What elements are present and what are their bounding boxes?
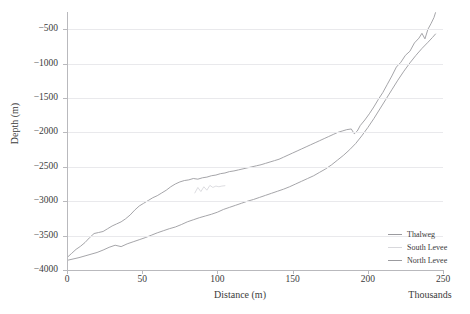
- y-tick-label: −3000: [12, 196, 58, 206]
- legend-label: Thalweg: [407, 231, 435, 239]
- legend-item[interactable]: Thalweg: [388, 228, 468, 241]
- y-tick-label: −500: [12, 24, 58, 34]
- x-tick-label: 250: [420, 275, 466, 285]
- legend: ThalwegSouth LeveeNorth Levee: [388, 228, 468, 267]
- legend-swatch: [388, 260, 402, 261]
- grid-line: [67, 98, 443, 99]
- legend-swatch: [388, 234, 402, 235]
- series-line: [195, 185, 225, 193]
- legend-item[interactable]: South Levee: [388, 241, 468, 254]
- x-axis-title: Distance (m): [180, 289, 300, 300]
- series-layer: [67, 12, 443, 270]
- x-tick-label: 0: [44, 275, 90, 285]
- y-tick-mark: [63, 29, 67, 30]
- x-axis-units-note: Thousands: [393, 289, 467, 300]
- y-tick-label: −4000: [12, 265, 58, 275]
- grid-line: [67, 29, 443, 30]
- y-axis-title: Depth (m): [9, 64, 20, 184]
- x-tick-label: 150: [270, 275, 316, 285]
- x-axis-line: [67, 270, 443, 271]
- y-tick-label: −3500: [12, 231, 58, 241]
- y-tick-mark: [63, 201, 67, 202]
- legend-item[interactable]: North Levee: [388, 254, 468, 267]
- depth-profile-chart: −500−1000−1500−2000−2500−3000−3500−4000 …: [0, 0, 470, 314]
- series-line: [67, 13, 435, 258]
- legend-swatch: [388, 247, 402, 248]
- grid-line: [67, 64, 443, 65]
- x-tick-label: 100: [194, 275, 240, 285]
- x-tick-label: 200: [345, 275, 391, 285]
- y-axis-line: [67, 12, 68, 270]
- y-tick-mark: [63, 236, 67, 237]
- grid-line: [67, 236, 443, 237]
- x-tick-label: 50: [119, 275, 165, 285]
- series-line: [67, 34, 435, 260]
- y-tick-mark: [63, 64, 67, 65]
- grid-line: [67, 201, 443, 202]
- y-tick-mark: [63, 98, 67, 99]
- plot-area: [67, 12, 443, 270]
- legend-label: South Levee: [407, 244, 447, 252]
- y-tick-mark: [63, 167, 67, 168]
- grid-line: [67, 132, 443, 133]
- legend-label: North Levee: [407, 257, 447, 265]
- grid-line: [67, 167, 443, 168]
- y-tick-mark: [63, 132, 67, 133]
